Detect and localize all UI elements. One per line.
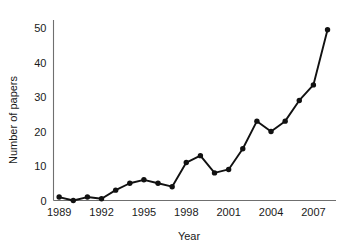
- data-point: [56, 194, 61, 199]
- data-point: [240, 146, 245, 151]
- data-point: [311, 82, 316, 87]
- data-point: [113, 187, 118, 192]
- data-point: [325, 27, 330, 32]
- x-axis-tick-labels: 1989199219951998200120042007: [47, 206, 326, 218]
- x-tick-label: 2004: [259, 206, 283, 218]
- data-point: [169, 184, 174, 189]
- data-point: [99, 196, 104, 201]
- y-tick-label: 30: [34, 91, 46, 103]
- data-point: [85, 194, 90, 199]
- x-tick-label: 2007: [301, 206, 325, 218]
- data-point: [254, 118, 259, 123]
- y-axis-title: Number of papers: [7, 75, 19, 164]
- y-tick-label: 0: [40, 195, 46, 207]
- data-series-line: [59, 30, 327, 201]
- line-chart: 01020304050 1989199219951998200120042007…: [0, 0, 344, 251]
- y-tick-label: 40: [34, 57, 46, 69]
- chart-container: 01020304050 1989199219951998200120042007…: [0, 0, 344, 251]
- data-point: [268, 129, 273, 134]
- data-point: [226, 167, 231, 172]
- data-point: [184, 160, 189, 165]
- data-point: [297, 98, 302, 103]
- data-point: [198, 153, 203, 158]
- data-point: [141, 177, 146, 182]
- x-tick-label: 1992: [89, 206, 113, 218]
- y-tick-label: 10: [34, 160, 46, 172]
- data-point: [212, 170, 217, 175]
- data-point: [282, 118, 287, 123]
- y-tick-label: 20: [34, 126, 46, 138]
- x-tick-label: 1998: [174, 206, 198, 218]
- y-tick-label: 50: [34, 22, 46, 34]
- y-axis-tick-labels: 01020304050: [34, 22, 46, 207]
- x-tick-label: 1989: [47, 206, 71, 218]
- data-point: [127, 181, 132, 186]
- x-tick-label: 1995: [132, 206, 156, 218]
- data-point: [71, 198, 76, 203]
- x-tick-label: 2001: [216, 206, 240, 218]
- data-point: [155, 181, 160, 186]
- x-axis-title: Year: [178, 230, 201, 242]
